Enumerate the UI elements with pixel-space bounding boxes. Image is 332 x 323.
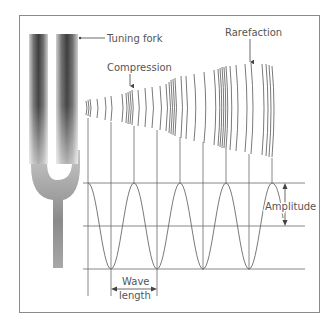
tuning-fork-label: Tuning fork [106,33,163,44]
amplitude-label: Amplitude [265,201,316,212]
wavelength-label-line2: length [119,290,151,301]
sound-wave-diagram: Tuning fork Compression Rarefaction [0,0,332,323]
rarefaction-label: Rarefaction [225,27,282,38]
wavelength-label-line1: Wave [122,276,149,287]
compression-label: Compression [107,62,172,73]
